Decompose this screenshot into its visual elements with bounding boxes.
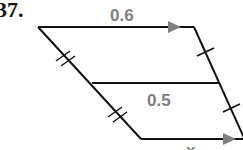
bottom-length-label: x — [186, 141, 196, 150]
top-length-label: 0.6 — [110, 6, 134, 25]
trapezoid-diagram: 0.6 0.5 x — [0, 0, 243, 150]
middle-length-label: 0.5 — [147, 91, 171, 110]
parallel-arrow-icon — [168, 21, 181, 33]
parallel-arrow-icon — [223, 133, 236, 145]
